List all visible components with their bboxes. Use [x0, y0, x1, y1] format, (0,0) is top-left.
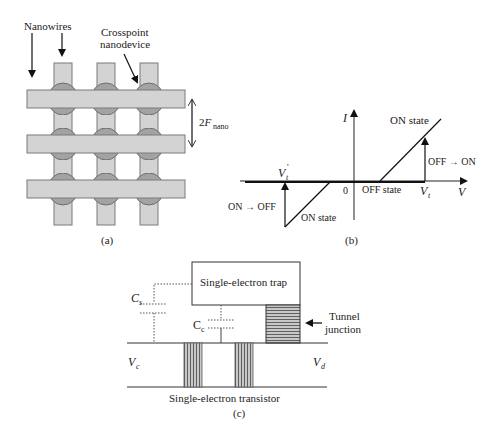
tunnel-junction	[266, 305, 300, 343]
tunnel-label-line1: Tunnel	[329, 310, 360, 322]
panel-a-crossbar: Nanowires Crosspoint nanodevice 2F nano …	[24, 20, 229, 247]
vc-subscript: c	[136, 362, 140, 371]
panel-b-caption: (b)	[345, 234, 358, 247]
trap-label: Single-electron trap	[200, 276, 288, 288]
capacitor-cc	[208, 305, 234, 343]
pitch-label: 2F	[199, 116, 212, 128]
nanowires-label: Nanowires	[24, 20, 72, 32]
origin-label: 0	[343, 185, 348, 196]
crosspoint-label-line2: nanodevice	[100, 38, 150, 50]
horizontal-nanowire-1	[27, 90, 185, 108]
vt-subscript: t	[428, 191, 431, 200]
crosspoint-arrow	[124, 54, 137, 82]
on-state-lower-label: ON state	[301, 212, 337, 223]
x-axis-label: V	[458, 185, 467, 199]
on-state-line-upper	[380, 119, 441, 181]
on-state-upper-label: ON state	[390, 114, 429, 126]
vd-subscript: d	[321, 362, 326, 371]
on-to-off-label: ON → OFF	[228, 201, 276, 212]
transistor-label: Single-electron transistor	[169, 392, 280, 404]
pitch-subscript: nano	[213, 122, 229, 131]
transistor-junction-2	[235, 343, 253, 387]
horizontal-nanowires	[27, 90, 185, 198]
panel-a-caption: (a)	[101, 234, 114, 247]
off-to-on-label: OFF → ON	[428, 156, 476, 167]
tunnel-label-line2: junction	[324, 323, 362, 335]
panel-b-iv-curve: I V 0 ON state OFF → ON OFF state V t V …	[228, 111, 476, 247]
transistor-junction-1	[184, 343, 202, 387]
cc-subscript: c	[201, 325, 205, 334]
vt-prime-mark: '	[287, 162, 289, 172]
panel-c-circuit: Single-electron trap Tunnel junction C s…	[127, 262, 362, 420]
cs-subscript: s	[139, 298, 142, 307]
off-state-label: OFF state	[362, 184, 402, 195]
panel-c-caption: (c)	[233, 407, 246, 420]
cc-label: C	[193, 318, 201, 332]
y-axis-label: I	[342, 111, 348, 125]
horizontal-nanowire-2	[27, 135, 185, 153]
figure-canvas: Nanowires Crosspoint nanodevice 2F nano …	[0, 0, 498, 439]
horizontal-nanowire-3	[27, 180, 185, 198]
crosspoint-label-line1: Crosspoint	[101, 26, 149, 38]
capacitor-cs	[140, 284, 192, 343]
